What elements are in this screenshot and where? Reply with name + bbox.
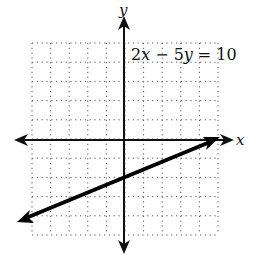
- y-axis-label: y: [118, 1, 128, 19]
- plotted-line: [17, 137, 220, 223]
- svg-text:2x−5y=10: 2x−5y=10: [131, 45, 237, 64]
- equation-label: 2x−5y=10: [131, 45, 237, 64]
- x-axis-label: x: [236, 131, 245, 149]
- graph: x y 2x−5y=10: [0, 0, 260, 257]
- y-axis: [118, 16, 130, 254]
